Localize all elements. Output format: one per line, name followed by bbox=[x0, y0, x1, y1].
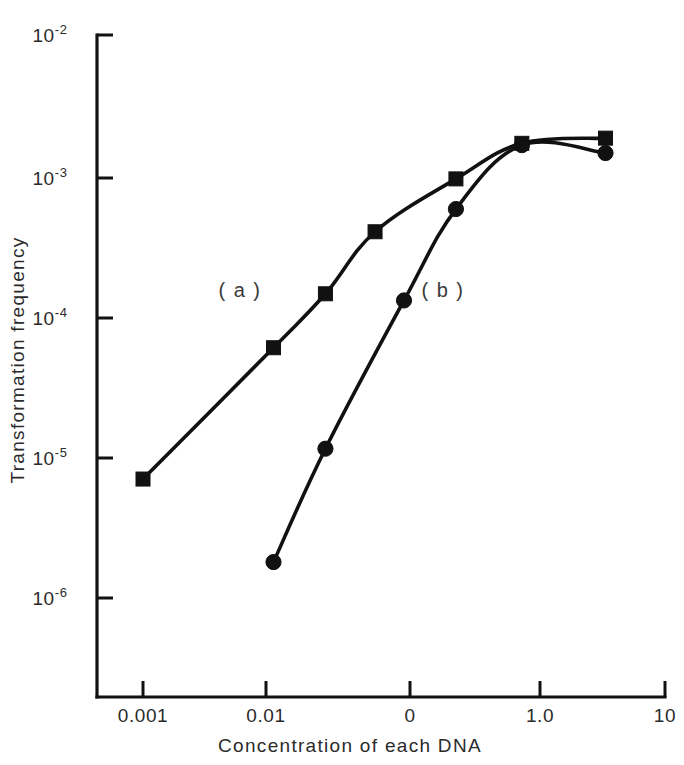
y-axis-title: Transformation frequency bbox=[7, 237, 28, 484]
y-axis-tick-labels: 10-2 10-3 10-4 10-5 10-6 bbox=[32, 22, 67, 609]
series-a-line bbox=[143, 138, 606, 479]
data-point-marker-circle bbox=[266, 554, 281, 569]
y-tick-label: 10-5 bbox=[32, 445, 67, 469]
data-point-marker-circle bbox=[396, 293, 411, 308]
data-point-marker-circle bbox=[598, 145, 613, 160]
x-tick-label: 1.0 bbox=[526, 705, 554, 726]
x-axis-tick-labels: 0.001 0.01 0 1.0 10 bbox=[118, 705, 676, 726]
data-point-marker-square bbox=[136, 472, 150, 486]
data-point-marker-circle bbox=[514, 138, 529, 153]
series-lines-group bbox=[143, 138, 606, 562]
y-axis-ticks bbox=[97, 35, 113, 598]
data-point-marker-square bbox=[318, 287, 332, 301]
x-tick-label: 0.01 bbox=[246, 705, 285, 726]
data-point-marker-square bbox=[599, 131, 613, 145]
x-tick-label: 10 bbox=[654, 705, 676, 726]
x-axis-ticks bbox=[143, 681, 665, 697]
data-point-marker-square bbox=[368, 225, 382, 239]
y-tick-label: 10-3 bbox=[32, 165, 67, 189]
series-b-line bbox=[274, 142, 606, 562]
chart-figure: 10-2 10-3 10-4 10-5 10-6 0.001 0.01 0 1.… bbox=[0, 0, 684, 765]
series-b-annotation: ( b ) bbox=[421, 279, 464, 301]
series-a-markers bbox=[136, 131, 613, 486]
series-b-markers bbox=[266, 138, 613, 570]
data-point-marker-circle bbox=[448, 201, 463, 216]
x-tick-label: 0 bbox=[404, 705, 415, 726]
x-axis-title: Concentration of each DNA bbox=[218, 735, 482, 756]
y-tick-label: 10-2 bbox=[32, 22, 67, 46]
series-a-annotation: ( a ) bbox=[218, 279, 261, 301]
y-tick-label: 10-6 bbox=[32, 585, 67, 609]
axes-group bbox=[97, 35, 665, 697]
y-tick-label: 10-4 bbox=[32, 305, 67, 329]
data-point-marker-square bbox=[267, 341, 281, 355]
x-tick-label: 0.001 bbox=[118, 705, 169, 726]
data-point-marker-circle bbox=[318, 441, 333, 456]
data-point-marker-square bbox=[449, 172, 463, 186]
